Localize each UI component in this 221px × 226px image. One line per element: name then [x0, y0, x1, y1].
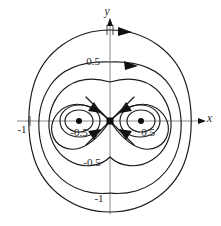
phase-portrait-svg: x y -1 -0.5 0.5 0.5 -0.5 -1	[0, 0, 221, 226]
y-tick-label-pos05: 0.5	[86, 55, 100, 67]
y-tick-label-neg1: -1	[94, 192, 103, 204]
fixed-point-center-left	[76, 118, 82, 124]
x-axis-label: x	[206, 112, 213, 124]
x-tick-label-neg1: -1	[17, 123, 26, 135]
x-tick-label-pos05: 0.5	[141, 126, 155, 138]
labels-group: x y -1 -0.5 0.5 0.5 -0.5 -1	[17, 5, 213, 204]
x-axis-arrow-icon	[198, 118, 206, 124]
y-tick-label-neg05: -0.5	[83, 156, 101, 168]
x-tick-label-neg05: -0.5	[70, 126, 88, 138]
axes-group	[17, 19, 203, 214]
arrow-outer-top	[118, 27, 132, 36]
y-axis-arrow-icon	[107, 18, 113, 26]
phase-portrait-figure: x y -1 -0.5 0.5 0.5 -0.5 -1	[0, 0, 221, 226]
arrow-mid-top	[124, 61, 138, 70]
fixed-point-center-right	[138, 118, 144, 124]
y-axis-label: y	[103, 5, 110, 18]
separatrix-right-lobe	[110, 104, 168, 149]
fixed-point-saddle-origin	[107, 118, 114, 125]
